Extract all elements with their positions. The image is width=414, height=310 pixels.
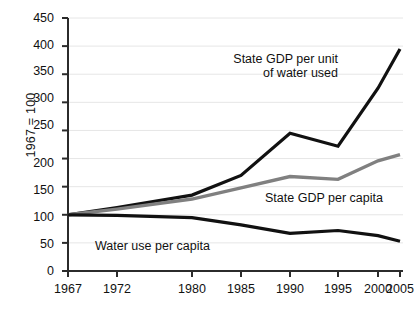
annotation-gdp-per-unit-water: State GDP per unit of water used: [190, 52, 338, 80]
annotation-line-1: Water use per capita: [95, 239, 210, 253]
annotation-line-2: of water used: [190, 66, 338, 80]
annotation-line-1: State GDP per capita: [265, 191, 383, 205]
annotation-line-1: State GDP per unit: [190, 52, 338, 66]
series-line: [68, 215, 400, 241]
annotation-gdp-per-capita: State GDP per capita: [265, 191, 383, 205]
annotation-water-use-per-capita: Water use per capita: [95, 239, 210, 253]
